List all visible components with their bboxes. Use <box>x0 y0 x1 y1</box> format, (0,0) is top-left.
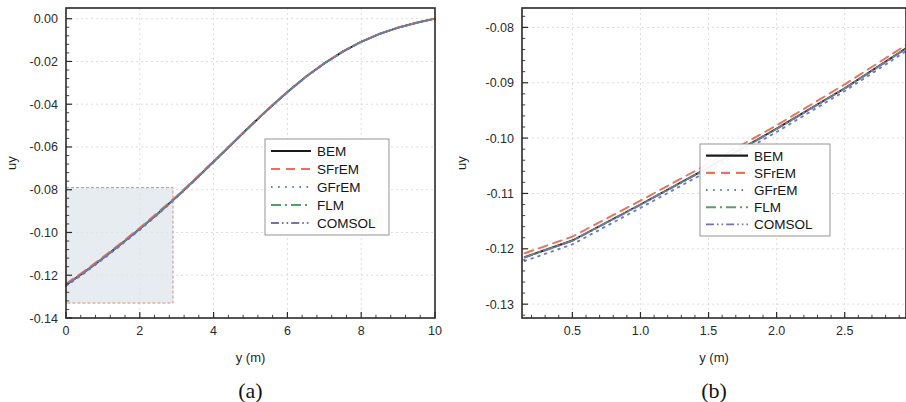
panel-a: 02468100.00-0.02-0.04-0.06-0.08-0.10-0.1… <box>0 0 460 402</box>
y-axis-title: uy <box>4 156 19 170</box>
legend-label-sfrem: SFrEM <box>317 162 359 177</box>
y-axis-tick-label: -0.02 <box>30 55 59 69</box>
y-axis-tick-label: -0.08 <box>30 183 59 197</box>
y-axis-tick-label: -0.12 <box>30 269 59 283</box>
y-axis-tick-label: -0.14 <box>30 312 59 326</box>
legend-label-comsol: COMSOL <box>754 217 813 232</box>
y-axis-tick-label: -0.10 <box>30 226 59 240</box>
panel-caption: (b) <box>701 378 727 402</box>
legend-label-bem: BEM <box>317 144 346 159</box>
x-axis-tick-label: 2.5 <box>836 324 853 338</box>
panel-a-plot: 02468100.00-0.02-0.04-0.06-0.08-0.10-0.1… <box>0 0 460 402</box>
figure-container: 02468100.00-0.02-0.04-0.06-0.08-0.10-0.1… <box>0 0 906 402</box>
x-axis-tick-label: 2 <box>136 324 143 338</box>
y-axis-tick-label: -0.13 <box>486 298 515 312</box>
x-axis-title: y (m) <box>699 350 729 365</box>
panel-caption: (a) <box>238 378 262 402</box>
y-axis-tick-label: -0.08 <box>486 21 515 35</box>
x-axis-title: y (m) <box>236 350 266 365</box>
y-axis-tick-label: -0.10 <box>486 132 515 146</box>
legend[interactable]: BEMSFrEMGFrEMFLMCOMSOL <box>265 139 389 235</box>
legend-label-gfrem: GFrEM <box>754 183 798 198</box>
legend-label-flm: FLM <box>754 200 781 215</box>
x-axis-tick-label: 6 <box>284 324 291 338</box>
y-axis-tick-label: -0.06 <box>30 140 59 154</box>
y-axis-tick-label: -0.11 <box>486 187 514 201</box>
x-axis-tick-label: 2.0 <box>768 324 785 338</box>
x-axis-tick-label: 1.5 <box>700 324 717 338</box>
legend[interactable]: BEMSFrEMGFrEMFLMCOMSOL <box>700 144 830 236</box>
y-axis-tick-label: -0.04 <box>30 98 59 112</box>
legend-label-comsol: COMSOL <box>317 216 376 231</box>
x-axis-tick-label: 0.5 <box>564 324 581 338</box>
legend-label-sfrem: SFrEM <box>754 166 796 181</box>
x-axis-tick-label: 8 <box>358 324 365 338</box>
y-axis-tick-label: -0.12 <box>486 242 515 256</box>
x-axis-tick-label: 10 <box>428 324 442 338</box>
panel-b-plot: 0.51.01.52.02.5-0.08-0.09-0.10-0.11-0.12… <box>450 0 906 402</box>
legend-label-gfrem: GFrEM <box>317 180 361 195</box>
legend-label-bem: BEM <box>754 149 783 164</box>
panel-b: 0.51.01.52.02.5-0.08-0.09-0.10-0.11-0.12… <box>450 0 906 402</box>
x-axis-tick-label: 0 <box>63 324 70 338</box>
x-axis-tick-label: 4 <box>210 324 217 338</box>
y-axis-title: uy <box>454 156 469 170</box>
y-axis-tick-label: 0.00 <box>34 12 58 26</box>
y-axis-tick-label: -0.09 <box>486 76 515 90</box>
x-axis-tick-label: 1.0 <box>632 324 649 338</box>
legend-label-flm: FLM <box>317 198 344 213</box>
